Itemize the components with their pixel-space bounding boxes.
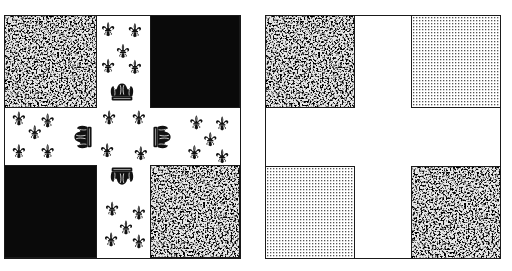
right-flag-quadrant-bottom-right [411,166,501,259]
right-flag [265,15,501,259]
dotted-texture [266,167,354,258]
dotted-texture [412,16,500,107]
top-arm-fleurs-de-lis [102,22,141,74]
granite-texture [412,167,500,258]
right-arm-fleurs-de-lis [188,115,228,163]
right-flag-quadrant-bottom-left [265,166,355,259]
left-arm-fleurs-de-lis [13,111,54,158]
top-crown-icon [111,83,133,100]
cross-charges [5,16,240,258]
right-flag-quadrant-top-left [265,15,355,108]
left-flag [4,15,241,259]
bottom-arm-fleurs-de-lis [105,201,145,248]
right-flag-quadrant-top-right [411,15,501,108]
center-fleurs-de-lis [101,110,147,160]
granite-texture [266,16,354,107]
